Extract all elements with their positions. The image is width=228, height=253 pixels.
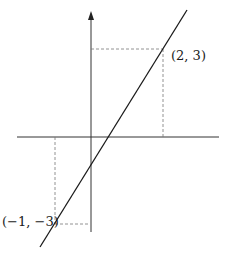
point-a-label: (2, 3) [171, 48, 206, 63]
graph-line [40, 10, 187, 247]
graph-canvas: (2, 3) (−1, −3) [0, 0, 228, 253]
point-b-label: (−1, −3) [2, 214, 59, 229]
y-axis-arrow-icon [88, 11, 94, 20]
